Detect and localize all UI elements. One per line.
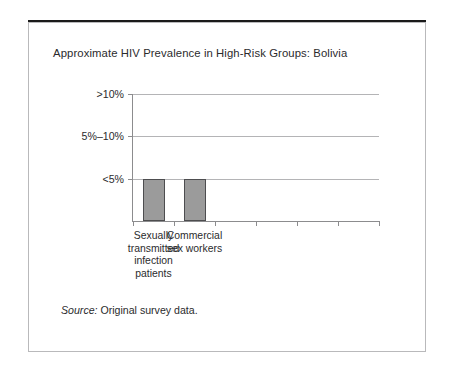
source-text: Original survey data. — [98, 304, 198, 316]
bar — [184, 179, 206, 221]
x-axis-tick — [174, 221, 175, 226]
x-axis-tick — [338, 221, 339, 226]
x-axis-tick — [256, 221, 257, 226]
y-axis-label: <5% — [103, 173, 125, 185]
x-axis-category-label: Commercial sex workers — [167, 230, 222, 255]
gridline — [133, 94, 379, 95]
chart-title: Approximate HIV Prevalence in High-Risk … — [53, 47, 347, 59]
y-axis-label: >10% — [97, 88, 124, 100]
y-axis-tick — [128, 94, 133, 95]
source-note: Source: Original survey data. — [61, 304, 198, 316]
y-axis-tick — [128, 179, 133, 180]
x-axis-tick — [297, 221, 298, 226]
x-axis-tick — [133, 221, 134, 226]
gridline — [133, 136, 379, 137]
x-axis-tick — [379, 221, 380, 226]
gridline — [133, 179, 379, 180]
plot-area: <5%5%–10%>10%Sexually transmitted infect… — [132, 94, 379, 222]
x-axis-tick — [215, 221, 216, 226]
figure-frame: Approximate HIV Prevalence in High-Risk … — [28, 22, 426, 352]
y-axis-tick — [128, 136, 133, 137]
y-axis-label: 5%–10% — [82, 130, 124, 142]
bar — [143, 179, 165, 221]
source-label: Source: — [61, 304, 98, 316]
